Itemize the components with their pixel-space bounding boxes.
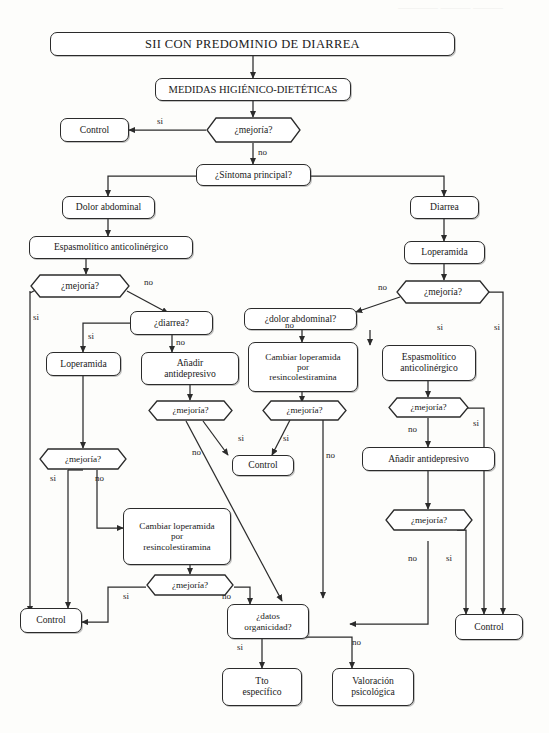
node-loperamida-right: Loperamida (404, 241, 485, 264)
decision-mejoria-bottom: ¿mejoría? (146, 574, 234, 596)
edge-label-dolor-si: si (437, 322, 443, 332)
edge-label-mejoria-mid-no: no (326, 450, 335, 460)
edge-label-mejoria1-si: si (157, 116, 163, 126)
node-cambiar-loperamida-mid: Cambiar loperamida por resincolestiramin… (248, 342, 358, 392)
decision-mejoria-mid-left-2: ¿mejoría? (148, 400, 233, 421)
node-cambiar-loperamida-bottom: Cambiar loperamida por resincolestiramin… (123, 508, 231, 565)
cambiar-mid-line1: Cambiar loperamida (265, 352, 340, 362)
decision-dolor-abdominal-question: ¿dolor abdominal? (244, 308, 357, 330)
edge-label-mejoria-l1-no: no (144, 277, 153, 287)
espasmolitico-right-line2: anticolinérgico (400, 363, 457, 374)
edge-label-mejoria-r1-no: no (378, 282, 387, 292)
decision-mejoria-right-3-label: ¿mejoría? (411, 515, 447, 525)
edge-label-datos-no: no (352, 637, 361, 647)
edge-label-mejoria-mid-si: si (283, 433, 289, 443)
decision-mejoria-mid-2: ¿mejoría? (262, 400, 347, 421)
node-sintoma-principal: ¿Síntoma principal? (196, 164, 311, 186)
decision-mejoria-left-2: ¿mejoría? (39, 448, 127, 470)
edge-label-mejoria-bottom-si: si (123, 591, 129, 601)
decision-mejoria-1-label: ¿mejoría? (235, 125, 273, 136)
decision-mejoria-left-1: ¿mejoría? (30, 274, 130, 298)
decision-mejoria-right-2-label: ¿mejoría? (410, 402, 446, 412)
edge-label-mejoria-l2-no: no (95, 473, 104, 483)
node-tto-especifico: Tto específico (222, 668, 302, 706)
node-control-bottom-right: Control (455, 614, 523, 640)
decision-mejoria-right-2: ¿mejoría? (388, 397, 469, 418)
decision-mejoria-mid-left-2-label: ¿mejoría? (172, 405, 208, 415)
anadir-antidep-left-line1: Añadir (177, 358, 204, 369)
edge-label-mejoria-l1-si: si (33, 312, 39, 322)
node-espasmolitico-anticolinergico-left: Espasmolítico anticolinérgico (29, 236, 193, 259)
cambiar-mid-line3: resincolestiramina (269, 372, 336, 382)
decision-mejoria-bottom-label: ¿mejoría? (172, 580, 208, 590)
edge-label-datos-si: si (237, 642, 243, 652)
edge-label-mejoria-ml2-si: si (238, 433, 244, 443)
edge-label-mejoria-ml2-no: no (192, 447, 201, 457)
cambiar-mid-line2: por (297, 362, 309, 372)
edge-label-mejoria-r1-si: si (494, 322, 500, 332)
tto-line2: específico (243, 687, 282, 698)
edge-label-mejoria1-no: no (258, 147, 267, 157)
decision-diarrea-question: ¿diarrea? (130, 311, 213, 335)
cambiar-bottom-line2: por (171, 531, 183, 541)
edge-label-diarrea-no: no (176, 337, 185, 347)
decision-mejoria-left-2-label: ¿mejoría? (65, 454, 101, 464)
node-medidas-higienico-dieteticas: MEDIDAS HIGIÉNICO-DIETÉTICAS (155, 78, 351, 101)
flowchart-page: ———— ——— ——— (0, 0, 549, 733)
datos-line2: organicidad? (244, 622, 291, 632)
node-control-bottom-left: Control (20, 608, 82, 633)
decision-mejoria-1: ¿mejoría? (206, 117, 301, 143)
edge-label-mejoria-bottom-no: no (222, 591, 231, 601)
edge-label-mejoria-r2-no: no (408, 424, 417, 434)
node-datos-organicidad: ¿datos organicidad? (227, 604, 309, 639)
decision-mejoria-right-1-label: ¿mejoría? (424, 287, 462, 298)
decision-mejoria-mid-2-label: ¿mejoría? (286, 405, 322, 415)
node-dolor-abdominal: Dolor abdominal (62, 196, 155, 219)
node-control-2: Control (232, 455, 294, 476)
edge-label-mejoria-l2-si: si (50, 473, 56, 483)
anadir-antidep-left-line2: antidepresivo (164, 369, 216, 380)
node-title: SII CON PREDOMINIO DE DIARREA (50, 32, 455, 56)
decision-mejoria-right-1: ¿mejoría? (396, 280, 490, 304)
edge-label-dolor-no: no (285, 320, 294, 330)
node-diarrea: Diarrea (410, 196, 479, 219)
edge-label-mejoria-r3-si: si (446, 553, 452, 563)
node-espasmolitico-anticolinergico-right: Espasmolítico anticolinérgico (382, 345, 476, 381)
edge-label-mejoria-r2-si: si (473, 418, 479, 428)
cambiar-bottom-line3: resincolestiramina (143, 542, 210, 552)
node-valoracion-psicologica: Valoración psicológica (332, 668, 414, 706)
cambiar-bottom-line1: Cambiar loperamida (139, 521, 214, 531)
datos-line1: ¿datos (256, 611, 279, 621)
node-anadir-antidepresivo-right: Añadir antidepresivo (362, 447, 495, 471)
edge-label-mejoria-r3-no: no (408, 553, 417, 563)
decision-mejoria-right-3: ¿mejoría? (385, 509, 473, 531)
node-control-1: Control (60, 118, 129, 142)
node-anadir-antidepresivo-left: Añadir antidepresivo (141, 352, 239, 385)
edge-label-diarrea-si: si (88, 331, 94, 341)
node-loperamida-left: Loperamida (46, 352, 121, 376)
valoracion-line2: psicológica (351, 687, 395, 698)
decision-mejoria-left-1-label: ¿mejoría? (61, 281, 99, 292)
